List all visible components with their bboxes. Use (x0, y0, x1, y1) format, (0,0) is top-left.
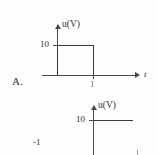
plot-b-x-tick-label-neg1: -1 (33, 138, 41, 147)
plot-b-y-axis-arrowhead (91, 105, 97, 110)
plot-a-waveform-falling-edge (93, 45, 94, 76)
plot-b-x-tick-neg1-text: -1 (33, 137, 41, 147)
plot-a-waveform-rising-edge (57, 45, 58, 75)
plot-a-y-axis-label: u(V) (62, 20, 80, 30)
plot-a-x-axis-label: t (144, 70, 147, 79)
plot-a-x-tick-label-1: 1 (90, 80, 95, 89)
plot-a-waveform-top (57, 45, 94, 46)
plot-b-y-tick-10-text: 10 (76, 114, 85, 124)
plot-b-y-axis (93, 110, 94, 155)
plot-a-y-tick-10-text: 10 (40, 39, 49, 49)
option-letter-a-text: A. (12, 75, 23, 87)
plot-b-y-axis-label-text: u(V) (98, 100, 116, 110)
plot-b-waveform-level (93, 120, 133, 121)
waveform-figure: u(V) t 10 1 A. u(V) (0, 0, 158, 155)
plot-b-x-axis-arrow-stub (137, 150, 138, 155)
plot-a-x-axis-arrowhead (135, 72, 140, 78)
plot-a-y-axis-arrowhead (55, 24, 61, 29)
plot-a-y-axis-label-text: u(V) (62, 19, 80, 29)
plot-b-y-axis-label: u(V) (98, 101, 116, 111)
plot-a-x-axis-label-text: t (144, 69, 147, 79)
plot-a-y-tick-label-10: 10 (40, 40, 49, 49)
option-letter-a: A. (12, 76, 23, 87)
plot-a-x-tick-1-text: 1 (90, 79, 95, 89)
plot-b-y-tick-label-10: 10 (76, 115, 85, 124)
plot-a-x-axis (42, 75, 136, 76)
